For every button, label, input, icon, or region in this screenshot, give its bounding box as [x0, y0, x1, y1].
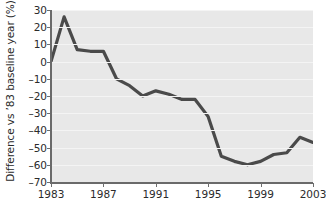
- x-axis-tick-labels: 198319871991199519992003: [51, 183, 313, 207]
- gridline: [51, 79, 313, 80]
- x-axis-tick-mark: [208, 183, 209, 187]
- x-axis-tick-label: 1995: [195, 188, 222, 200]
- y-axis-tick-label: 10: [34, 38, 47, 50]
- y-axis-tick-label: 30: [34, 4, 47, 16]
- x-axis-tick-mark: [261, 183, 262, 187]
- gridline: [51, 44, 313, 45]
- y-axis-tick-label: –70: [28, 176, 47, 188]
- series-polyline: [51, 17, 313, 165]
- gridline: [51, 165, 313, 166]
- x-axis-tick-mark: [51, 183, 52, 187]
- y-axis-title-text: Difference vs ’83 baseline year (%): [4, 0, 16, 181]
- y-axis-tick-labels: 3020100–10–20–30–40–50–60–70: [18, 0, 50, 185]
- gridline: [51, 96, 313, 97]
- plot-area: [51, 10, 313, 182]
- x-axis-tick-mark: [313, 183, 314, 187]
- x-axis-tick-mark: [103, 183, 104, 187]
- y-axis-tick-label: –20: [28, 90, 47, 102]
- gridline: [51, 27, 313, 28]
- x-axis-tick-label: 1987: [90, 188, 117, 200]
- gridline: [51, 62, 313, 63]
- gridline: [51, 10, 313, 11]
- x-axis-tick-mark: [156, 183, 157, 187]
- gridline: [51, 130, 313, 131]
- y-axis-title: Difference vs ’83 baseline year (%): [0, 0, 20, 182]
- x-axis-tick-label: 2003: [300, 188, 326, 200]
- y-axis-tick-label: –50: [28, 142, 47, 154]
- x-axis-tick-label: 1983: [38, 188, 65, 200]
- x-axis-tick-label: 1991: [142, 188, 169, 200]
- y-axis-tick-label: –30: [28, 107, 47, 119]
- gridline: [51, 148, 313, 149]
- y-axis-tick-label: 20: [34, 21, 47, 33]
- y-axis-tick-label: –60: [28, 159, 47, 171]
- y-axis-tick-label: 0: [40, 56, 47, 68]
- y-axis-tick-label: –10: [28, 73, 47, 85]
- x-axis-tick-label: 1999: [247, 188, 274, 200]
- y-axis-tick-label: –40: [28, 124, 47, 136]
- y-axis-line: [50, 10, 52, 183]
- gridline: [51, 113, 313, 114]
